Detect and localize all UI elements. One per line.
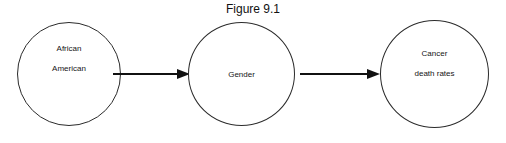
node-cancer-death-rates-label-line2: death rates	[381, 69, 488, 79]
figure-title: Figure 9.1	[0, 2, 506, 17]
node-gender-label-line1: Gender	[189, 70, 294, 80]
node-gender: Gender	[188, 22, 295, 126]
node-african-american: African American	[17, 22, 121, 126]
node-cancer-death-rates: Cancer death rates	[380, 20, 489, 128]
arrow-gender-to-cancer-death-rates	[300, 68, 380, 80]
node-african-american-label-line1: African	[18, 44, 120, 54]
figure-diagram: Figure 9.1 African American Gender Cance…	[0, 0, 506, 143]
arrow-african-american-to-gender	[113, 68, 190, 80]
node-african-american-label-line2: American	[18, 64, 120, 74]
node-cancer-death-rates-label-line1: Cancer	[381, 49, 488, 59]
